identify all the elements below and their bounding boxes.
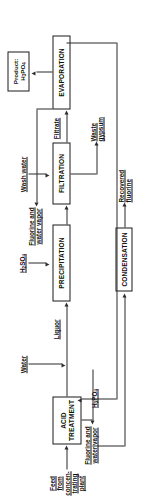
unit-evaporation-label: EVAPORATION <box>57 48 64 96</box>
stream-label-filtrate: Filtrate <box>52 110 59 146</box>
line-filtrate <box>66 113 67 142</box>
stream-label-fluorine-vapor-evaporation: Fluorine andwater vapor <box>27 204 42 248</box>
unit-condensation-label: CONDENSATION <box>120 232 127 286</box>
stream-label-recycle-h3po4: H3PO4 <box>90 382 97 414</box>
unit-acid-treatment-label: ACIDTREATMENT <box>59 399 74 440</box>
stream-label-liquor: Liquor <box>52 311 59 347</box>
stream-label-recovered-fluorine: Recoveredfluorine <box>117 158 132 202</box>
unit-filtration-label: FILTRATION <box>57 153 64 192</box>
stream-label-waste-gypsum: Wastegypsum <box>89 103 104 141</box>
arrow-water-into-liquor-line <box>61 363 65 367</box>
line-h2so4-drop <box>28 262 46 263</box>
arrow-h2so4-into-precipitation <box>45 262 49 266</box>
line-liquor <box>66 305 67 396</box>
line-vapor-from-evaporation <box>36 109 37 202</box>
line-vapor-to-condensation <box>92 445 124 446</box>
arrow-waste-gypsum <box>94 141 98 145</box>
stream-label-h2so4: H2SO4 <box>18 246 25 280</box>
arrow-liquor-to-precipitation <box>64 302 68 306</box>
line-product-riser <box>36 71 52 72</box>
line-recycle-bottom <box>116 42 117 399</box>
line-water-drop <box>28 363 62 364</box>
unit-filtration[interactable]: FILTRATION <box>52 142 70 204</box>
line-vapor-from-acid-treatment <box>92 369 93 393</box>
unit-condensation[interactable]: CONDENSATION <box>115 227 132 291</box>
arrow-product <box>31 71 35 75</box>
arrow-recovered-fluorine <box>122 202 126 206</box>
line-vapor-into-condensation <box>124 296 125 446</box>
line-gypsum-down <box>70 173 96 174</box>
arrow-filtrate-to-evaporation <box>64 110 68 114</box>
arrow-vapor-into-condensation <box>122 293 126 297</box>
line-vapor-acid-stub <box>92 393 93 420</box>
line-feed-to-acid-treatment <box>66 448 67 469</box>
line-precipitation-to-filtration <box>66 208 67 224</box>
arrow-feed-to-acid-treatment <box>64 445 68 449</box>
arrow-recycle-into-acid-treatment <box>77 398 81 402</box>
stream-label-wash-water: Wash water <box>19 150 26 198</box>
stream-label-feed: Feed fromconcen-tratingplant <box>48 469 85 497</box>
line-gypsum-right <box>96 144 97 174</box>
unit-precipitation[interactable]: PRECIPITATION <box>52 224 70 301</box>
line-recycle-riser <box>66 42 116 43</box>
unit-evaporation[interactable]: EVAPORATION <box>52 35 70 109</box>
stream-label-product: Product:H3PO4 <box>7 51 29 91</box>
line-vapor-evap-riser <box>36 108 52 109</box>
unit-acid-treatment[interactable]: ACIDTREATMENT <box>52 396 81 444</box>
line-recovered-fluorine <box>124 205 125 227</box>
stream-label-water: Water <box>19 347 26 381</box>
unit-precipitation-label: PRECIPITATION <box>57 237 64 288</box>
line-recycle-into-acid <box>81 398 116 399</box>
arrow-precipitation-to-filtration <box>64 205 68 209</box>
arrow-wash-water-into-filtration <box>45 173 49 177</box>
